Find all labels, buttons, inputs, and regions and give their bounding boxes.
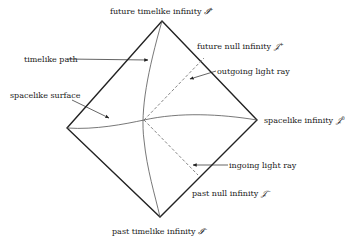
spacelike-surface-curve	[67, 115, 257, 129]
outgoing-light-ray-arrow	[190, 71, 216, 79]
label-past-timelike-infinity: past timelike infinity 𝓘−	[112, 226, 207, 236]
penrose-diagram: future timelike infinity 𝓘+ future null …	[0, 0, 352, 239]
label-ingoing-light-ray: ingoing light ray	[229, 161, 297, 170]
label-outgoing-light-ray: outgoing light ray	[217, 67, 290, 76]
label-timelike-path: timelike path	[24, 55, 78, 64]
label-spacelike-surface: spacelike surface	[10, 91, 81, 100]
timelike-path-arrow	[67, 59, 148, 60]
outgoing-light-ray-line	[144, 58, 204, 120]
label-future-null-infinity: future null infinity 𝒥+	[197, 41, 284, 51]
ingoing-light-ray-line	[144, 120, 198, 175]
label-future-timelike-infinity: future timelike infinity 𝓘+	[110, 6, 213, 16]
timelike-path-curve	[143, 21, 162, 217]
label-spacelike-infinity: spacelike infinity 𝒥0	[264, 115, 345, 125]
label-past-null-infinity: past null infinity 𝒥−	[192, 188, 271, 198]
